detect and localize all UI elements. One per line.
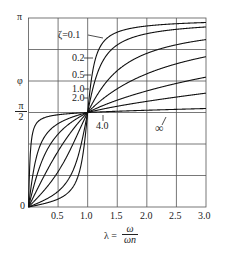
x-axis-label-fraction: ω ωn [122, 224, 138, 245]
x-axis-label-den: ωn [122, 235, 138, 245]
y-tick-half-pi: π 2 [15, 101, 27, 122]
grid [29, 18, 207, 207]
x-tick-3.0: 3.0 [198, 211, 211, 221]
y-tick-half-pi-den: 2 [15, 112, 27, 122]
x-tick-2.5: 2.5 [169, 211, 182, 221]
x-tick-0.5: 0.5 [51, 211, 64, 221]
label-zeta-infinity: ∞ [155, 123, 164, 133]
y-axis-label-phi: φ [17, 76, 23, 86]
label-zeta-2.0: 2.0 [72, 93, 85, 103]
label-zeta-0.5: 0.5 [72, 70, 85, 80]
x-tick-1.0: 1.0 [80, 211, 93, 221]
x-tick-2.0: 2.0 [140, 211, 153, 221]
label-zeta-4.0: 4.0 [96, 121, 109, 131]
label-zeta-0.2: 0.2 [72, 53, 85, 63]
x-axis-label-lhs: λ = [104, 231, 117, 241]
label-zeta-0.1: ζ=0.1 [58, 30, 80, 40]
y-tick-pi: π [17, 12, 22, 22]
y-tick-zero: 0 [20, 201, 25, 211]
x-tick-1.5: 1.5 [110, 211, 123, 221]
